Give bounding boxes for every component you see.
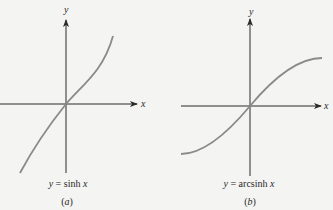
caption-a-eq: = sinh [53, 178, 83, 189]
x-axis-label-a: x [141, 99, 145, 109]
caption-b-x: x [270, 178, 274, 189]
panel-b [181, 19, 322, 176]
caption-b: y = arcsinh x [224, 179, 275, 189]
y-axis-label-b: y [249, 7, 253, 17]
panel-a [0, 20, 137, 173]
panel-tag-a: (a) [61, 197, 73, 207]
caption-a: y = sinh x [49, 179, 88, 189]
panel-tag-b: (b) [244, 197, 256, 207]
caption-b-eq: = arcsinh [228, 178, 270, 189]
tag-b-close: ) [253, 196, 256, 207]
caption-a-x: x [83, 178, 87, 189]
tag-a-close: ) [70, 196, 73, 207]
x-axis-label-b: x [324, 101, 328, 111]
y-axis-label-a: y [64, 5, 68, 15]
